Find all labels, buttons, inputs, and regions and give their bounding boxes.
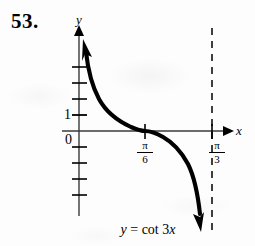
origin-label: 0 (65, 133, 72, 147)
y-tick-label-one: 1 (64, 108, 71, 122)
fraction-numerator: π (134, 140, 156, 152)
x-axis-label: x (236, 124, 242, 137)
graph-canvas (0, 0, 255, 246)
fraction-numerator: π (206, 140, 228, 152)
caption-x-variable: x (169, 222, 175, 237)
y-axis-label: y (76, 13, 82, 26)
x-tick-label-pi-over-6: π 6 (134, 140, 156, 165)
x-axis-arrowhead (223, 126, 234, 136)
x-tick-label-pi-over-3: π 3 (206, 140, 228, 165)
textbook-figure: 53. y x 1 0 π (0, 0, 255, 246)
fraction-denominator: 6 (134, 153, 156, 165)
cotangent-curve (86, 52, 200, 214)
fraction-denominator: 3 (206, 153, 228, 165)
caption-equation-body: = cot 3 (127, 222, 170, 237)
function-caption: y = cot 3x (96, 222, 200, 238)
